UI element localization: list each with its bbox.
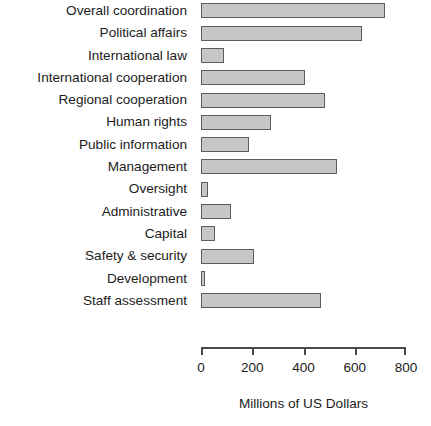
x-axis-tick xyxy=(252,347,254,355)
category-label: Safety & security xyxy=(85,245,187,267)
category-label: Political affairs xyxy=(100,22,187,44)
bar-row: Overall coordination xyxy=(0,0,431,22)
category-label: Administrative xyxy=(102,201,187,223)
x-axis-tick-label: 600 xyxy=(343,360,366,375)
x-axis-tick-label: 400 xyxy=(292,360,315,375)
category-label: Oversight xyxy=(129,178,187,200)
bar xyxy=(201,249,254,264)
bar-track xyxy=(201,226,215,241)
bar-row: Regional cooperation xyxy=(0,89,431,111)
bar-track xyxy=(201,204,231,219)
bar xyxy=(201,271,205,286)
category-label: Regional cooperation xyxy=(59,89,187,111)
category-label: Management xyxy=(108,156,187,178)
x-axis-tick xyxy=(304,347,306,355)
category-label: International law xyxy=(88,45,187,67)
bar xyxy=(201,93,325,108)
category-label: Overall coordination xyxy=(66,0,187,22)
category-label: Development xyxy=(107,268,187,290)
bar-row: Management xyxy=(0,156,431,178)
bar-row: Safety & security xyxy=(0,245,431,267)
bar-track xyxy=(201,271,205,286)
x-axis-tick xyxy=(201,347,203,355)
bar-row: Human rights xyxy=(0,111,431,133)
x-axis-tick-label: 800 xyxy=(395,360,418,375)
category-label: Public information xyxy=(79,134,187,156)
bar-row: Staff assessment xyxy=(0,290,431,312)
chart-rows: Overall coordinationPolitical affairsInt… xyxy=(0,0,431,312)
bar xyxy=(201,115,271,130)
bar-track xyxy=(201,93,325,108)
category-label: International cooperation xyxy=(37,67,187,89)
bar-row: Development xyxy=(0,268,431,290)
bar-track xyxy=(201,137,249,152)
bar-track xyxy=(201,3,385,18)
bar-row: International cooperation xyxy=(0,67,431,89)
bar-row: Capital xyxy=(0,223,431,245)
bar-track xyxy=(201,249,254,264)
bar-row: Administrative xyxy=(0,201,431,223)
bar-track xyxy=(201,115,271,130)
bar-track xyxy=(201,48,224,63)
bar xyxy=(201,293,321,308)
bar-row: Political affairs xyxy=(0,22,431,44)
bar xyxy=(201,70,305,85)
bar xyxy=(201,3,385,18)
x-axis: 0200400600800 xyxy=(201,347,406,348)
category-label: Human rights xyxy=(106,111,187,133)
x-axis-tick xyxy=(404,347,406,355)
bar-row: Oversight xyxy=(0,178,431,200)
bar-track xyxy=(201,182,208,197)
bar xyxy=(201,159,337,174)
category-label: Staff assessment xyxy=(83,290,187,312)
bar-row: Public information xyxy=(0,134,431,156)
bar-track xyxy=(201,293,321,308)
bar-track xyxy=(201,159,337,174)
x-axis-tick xyxy=(355,347,357,355)
bar xyxy=(201,137,249,152)
bar-row: International law xyxy=(0,45,431,67)
bar-track xyxy=(201,26,362,41)
x-axis-tick-label: 0 xyxy=(197,360,205,375)
bar xyxy=(201,182,208,197)
bar-chart: Overall coordinationPolitical affairsInt… xyxy=(0,0,431,426)
bar xyxy=(201,26,362,41)
bar xyxy=(201,226,215,241)
bar xyxy=(201,204,231,219)
bar xyxy=(201,48,224,63)
x-axis-title: Millions of US Dollars xyxy=(201,396,406,411)
category-label: Capital xyxy=(145,223,187,245)
x-axis-tick-label: 200 xyxy=(241,360,264,375)
bar-track xyxy=(201,70,305,85)
